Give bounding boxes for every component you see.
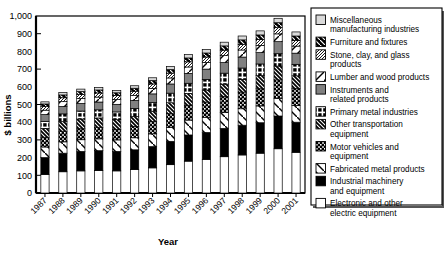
legend-swatch — [316, 85, 326, 95]
bar-1989 — [77, 89, 85, 193]
bar-segment — [238, 50, 246, 57]
bar-segment — [256, 64, 264, 76]
legend-label: Industrial machinery — [330, 177, 404, 186]
bar-segment — [274, 149, 282, 193]
bar-segment — [292, 152, 300, 193]
bar-segment — [113, 112, 121, 120]
bar-segment — [220, 56, 228, 63]
bar-segment — [166, 114, 174, 128]
bar-segment — [59, 114, 67, 122]
bar-segment — [41, 137, 49, 147]
bar-segment — [184, 73, 192, 83]
legend-label: and equipment — [330, 187, 385, 196]
bar-segment — [202, 69, 210, 79]
bar-segment — [184, 161, 192, 193]
bar-segment — [184, 135, 192, 161]
legend-label: Primary metal industries — [330, 108, 418, 117]
bar-1995 — [184, 55, 192, 193]
bar-segment — [77, 111, 85, 119]
bar-segment — [184, 120, 192, 135]
bar-segment — [238, 109, 246, 125]
bar-segment — [256, 45, 264, 52]
bar-segment — [148, 134, 156, 147]
bar-segment — [274, 98, 282, 116]
bar-segment — [238, 68, 246, 79]
bar-segment — [256, 35, 264, 40]
bar-1992 — [131, 86, 139, 193]
bar-segment — [148, 81, 156, 84]
bar-segment — [220, 157, 228, 193]
legend-label: electric equipment — [330, 209, 397, 218]
bar-segment — [166, 128, 174, 142]
bar-segment — [184, 94, 192, 106]
bar-segment — [238, 125, 246, 155]
bar-segment — [41, 158, 49, 175]
bar-segment — [184, 58, 192, 62]
legend-label: manufacturing industries — [330, 25, 419, 34]
bar-segment — [292, 53, 300, 64]
y-tick-label: 500 — [17, 100, 32, 110]
legend: Miscellaneousmanufacturing industriesFur… — [311, 8, 444, 218]
bar-segment — [131, 117, 139, 127]
bar-segment — [292, 40, 300, 46]
bar-segment — [166, 73, 174, 78]
bar-segment — [292, 36, 300, 40]
bar-segment — [113, 91, 121, 93]
legend-swatch — [316, 37, 326, 47]
bar-segment — [77, 95, 85, 99]
bar-segment — [202, 102, 210, 117]
bar-segment — [238, 40, 246, 44]
bar-segment — [202, 62, 210, 69]
bar-segment — [184, 62, 192, 67]
bar-segment — [220, 97, 228, 113]
bar-segment — [238, 79, 246, 92]
bar-segment — [256, 40, 264, 46]
y-tick-label: 900 — [17, 29, 32, 39]
x-axis-title: Year — [158, 236, 178, 247]
legend-label: Other transportation — [330, 120, 403, 129]
bar-segment — [59, 172, 67, 193]
bar-segment — [41, 107, 49, 111]
bar-segment — [256, 153, 264, 193]
bar-segment — [256, 76, 264, 89]
bar-segment — [166, 141, 174, 164]
bar-segment — [166, 66, 174, 69]
bar-1988 — [59, 93, 67, 193]
bar-segment — [220, 112, 228, 128]
bar-segment — [274, 34, 282, 42]
bar-segment — [220, 84, 228, 96]
legend-label: Miscellaneous — [330, 16, 382, 25]
bar-segment — [131, 170, 139, 193]
bar-segment — [59, 106, 67, 113]
bar-segment — [77, 129, 85, 140]
bar-segment — [238, 155, 246, 193]
bar-segment — [41, 104, 49, 107]
bar-segment — [77, 171, 85, 193]
legend-swatch — [316, 176, 326, 186]
y-axis-title: $ billions — [2, 94, 13, 135]
bar-segment — [238, 57, 246, 68]
y-tick-label: 800 — [17, 47, 32, 57]
bar-segment — [113, 151, 121, 170]
bar-segment — [148, 168, 156, 193]
bar-segment — [202, 79, 210, 90]
bar-segment — [202, 49, 210, 53]
bar-segment — [256, 106, 264, 123]
y-tick-label: 0 — [27, 188, 32, 198]
bar-segment — [95, 171, 103, 193]
bar-segment — [166, 70, 174, 74]
y-tick-label: 700 — [17, 64, 32, 74]
bar-segment — [59, 122, 67, 132]
bar-1990 — [95, 88, 103, 193]
legend-label: Fabricated metal products — [330, 165, 425, 174]
bar-segment — [77, 98, 85, 103]
bar-segment — [113, 96, 121, 100]
bar-segment — [184, 55, 192, 58]
bar-segment — [95, 102, 103, 110]
y-tick-label: 600 — [17, 82, 32, 92]
bar-segment — [256, 89, 264, 106]
bar-segment — [238, 92, 246, 109]
legend-label: Motor vehicles and — [330, 143, 399, 152]
stacked-bar-chart: 01002003004005006007008009001,000 198719… — [0, 0, 446, 253]
bar-segment — [113, 104, 121, 112]
